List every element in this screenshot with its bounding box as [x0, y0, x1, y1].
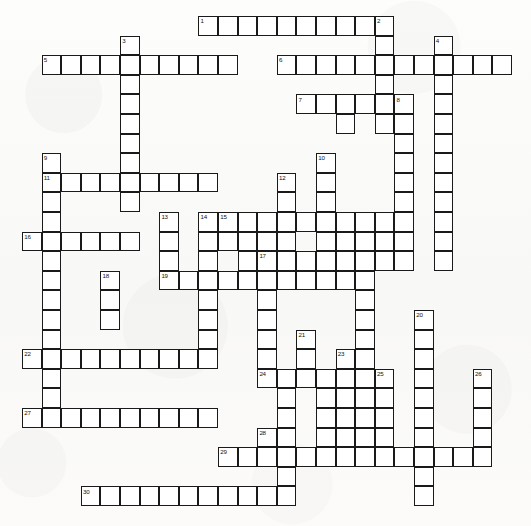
- crossword-cell[interactable]: 15: [218, 212, 238, 232]
- crossword-cell[interactable]: [296, 349, 316, 369]
- crossword-cell[interactable]: [277, 212, 297, 232]
- crossword-cell[interactable]: [336, 388, 356, 408]
- crossword-cell[interactable]: 24: [257, 369, 277, 389]
- crossword-cell[interactable]: [42, 310, 62, 330]
- crossword-cell[interactable]: [434, 251, 454, 271]
- crossword-cell[interactable]: [61, 232, 81, 252]
- crossword-cell[interactable]: [120, 134, 140, 154]
- crossword-cell[interactable]: [336, 94, 356, 114]
- crossword-cell[interactable]: [42, 369, 62, 389]
- crossword-cell[interactable]: [238, 251, 258, 271]
- crossword-cell[interactable]: [257, 16, 277, 36]
- crossword-cell[interactable]: [375, 94, 395, 114]
- crossword-cell[interactable]: 27: [22, 408, 42, 428]
- crossword-cell[interactable]: 8: [394, 94, 414, 114]
- crossword-cell[interactable]: [414, 486, 434, 506]
- crossword-cell[interactable]: [159, 232, 179, 252]
- crossword-cell[interactable]: [42, 408, 62, 428]
- crossword-cell[interactable]: [257, 290, 277, 310]
- crossword-cell[interactable]: [198, 310, 218, 330]
- crossword-cell[interactable]: [434, 212, 454, 232]
- crossword-cell[interactable]: [355, 408, 375, 428]
- crossword-cell[interactable]: [434, 153, 454, 173]
- crossword-cell[interactable]: 17: [257, 251, 277, 271]
- crossword-cell[interactable]: [355, 94, 375, 114]
- crossword-cell[interactable]: [257, 486, 277, 506]
- crossword-cell[interactable]: [42, 192, 62, 212]
- crossword-cell[interactable]: [100, 232, 120, 252]
- crossword-cell[interactable]: [100, 349, 120, 369]
- crossword-cell[interactable]: 7: [296, 94, 316, 114]
- crossword-cell[interactable]: [238, 16, 258, 36]
- crossword-cell[interactable]: [414, 369, 434, 389]
- crossword-cell[interactable]: [120, 114, 140, 134]
- crossword-cell[interactable]: [336, 369, 356, 389]
- crossword-cell[interactable]: [238, 212, 258, 232]
- crossword-cell[interactable]: [159, 349, 179, 369]
- crossword-cell[interactable]: [218, 55, 238, 75]
- crossword-cell[interactable]: [394, 212, 414, 232]
- crossword-cell[interactable]: [159, 173, 179, 193]
- crossword-cell[interactable]: [355, 388, 375, 408]
- crossword-cell[interactable]: [120, 349, 140, 369]
- crossword-cell[interactable]: 5: [42, 55, 62, 75]
- crossword-cell[interactable]: [277, 369, 297, 389]
- crossword-cell[interactable]: [198, 55, 218, 75]
- crossword-cell[interactable]: 29: [218, 447, 238, 467]
- crossword-cell[interactable]: [355, 271, 375, 291]
- crossword-cell[interactable]: [336, 212, 356, 232]
- crossword-cell[interactable]: [453, 447, 473, 467]
- crossword-cell[interactable]: [316, 428, 336, 448]
- crossword-cell[interactable]: [355, 310, 375, 330]
- crossword-cell[interactable]: [316, 408, 336, 428]
- crossword-cell[interactable]: [414, 388, 434, 408]
- crossword-cell[interactable]: [42, 290, 62, 310]
- crossword-cell[interactable]: [394, 114, 414, 134]
- crossword-cell[interactable]: 30: [81, 486, 101, 506]
- crossword-cell[interactable]: [375, 232, 395, 252]
- crossword-cell[interactable]: [81, 232, 101, 252]
- crossword-cell[interactable]: [296, 251, 316, 271]
- crossword-cell[interactable]: [120, 173, 140, 193]
- crossword-cell[interactable]: [355, 330, 375, 350]
- crossword-cell[interactable]: [179, 408, 199, 428]
- crossword-cell[interactable]: [434, 192, 454, 212]
- crossword-cell[interactable]: [42, 232, 62, 252]
- crossword-cell[interactable]: [218, 16, 238, 36]
- crossword-cell[interactable]: [375, 36, 395, 56]
- crossword-cell[interactable]: [198, 408, 218, 428]
- crossword-cell[interactable]: [42, 251, 62, 271]
- crossword-cell[interactable]: [355, 251, 375, 271]
- crossword-cell[interactable]: [140, 173, 160, 193]
- crossword-cell[interactable]: [316, 94, 336, 114]
- crossword-cell[interactable]: [140, 349, 160, 369]
- crossword-cell[interactable]: [218, 486, 238, 506]
- crossword-cell[interactable]: [218, 232, 238, 252]
- crossword-cell[interactable]: [81, 349, 101, 369]
- crossword-cell[interactable]: 1: [198, 16, 218, 36]
- crossword-cell[interactable]: [238, 447, 258, 467]
- crossword-cell[interactable]: [316, 369, 336, 389]
- crossword-cell[interactable]: [277, 408, 297, 428]
- crossword-cell[interactable]: [394, 153, 414, 173]
- crossword-cell[interactable]: [277, 251, 297, 271]
- crossword-cell[interactable]: 9: [42, 153, 62, 173]
- crossword-cell[interactable]: [159, 251, 179, 271]
- crossword-cell[interactable]: [375, 408, 395, 428]
- crossword-cell[interactable]: 22: [22, 349, 42, 369]
- crossword-cell[interactable]: [277, 467, 297, 487]
- crossword-cell[interactable]: [42, 212, 62, 232]
- crossword-cell[interactable]: [120, 55, 140, 75]
- crossword-cell[interactable]: [414, 349, 434, 369]
- crossword-cell[interactable]: [336, 114, 356, 134]
- crossword-cell[interactable]: 2: [375, 16, 395, 36]
- crossword-cell[interactable]: [257, 349, 277, 369]
- crossword-cell[interactable]: [336, 251, 356, 271]
- crossword-cell[interactable]: [394, 134, 414, 154]
- crossword-cell[interactable]: 26: [473, 369, 493, 389]
- crossword-cell[interactable]: [355, 55, 375, 75]
- crossword-cell[interactable]: [257, 447, 277, 467]
- crossword-cell[interactable]: [434, 173, 454, 193]
- crossword-cell[interactable]: [120, 192, 140, 212]
- crossword-cell[interactable]: [179, 271, 199, 291]
